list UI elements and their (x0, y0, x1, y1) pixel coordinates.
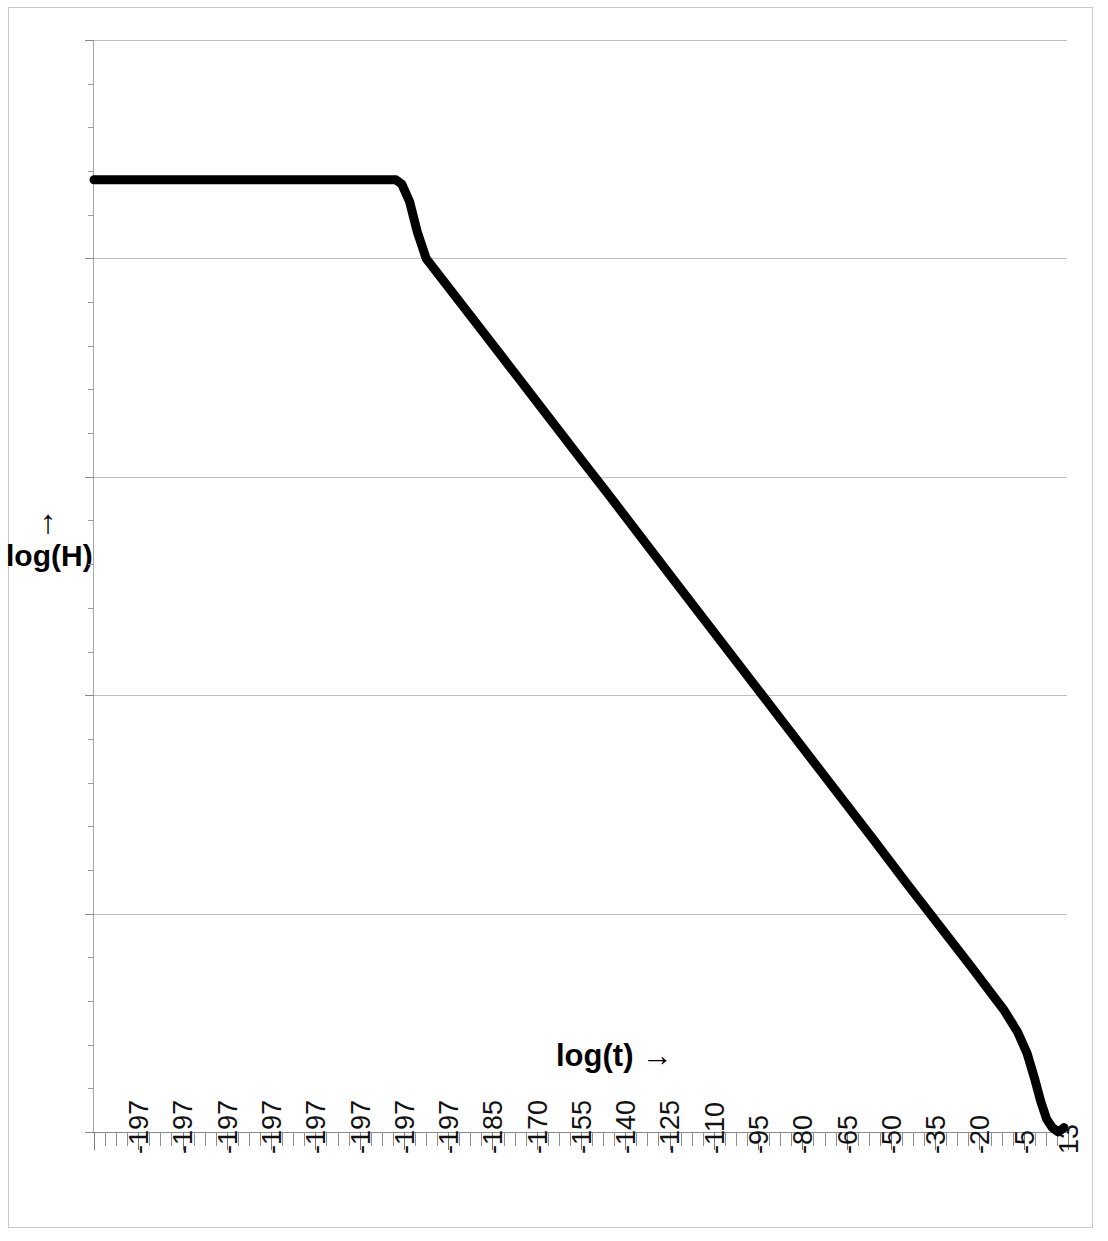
x-axis-minor-tick (515, 1132, 516, 1146)
curve-polyline (94, 180, 1064, 1132)
x-axis-minor-tick (780, 1132, 781, 1146)
x-axis-minor-tick (913, 1132, 914, 1146)
x-axis-minor-tick (105, 1132, 106, 1146)
x-axis-minor-tick (116, 1132, 117, 1146)
x-axis-minor-tick (825, 1132, 826, 1146)
plot-area: -197-197-197-197-197-197-197-197-185-170… (93, 40, 1067, 1132)
y-axis-major-tick (85, 1132, 94, 1133)
x-axis-minor-tick (470, 1132, 471, 1146)
x-axis-minor-tick (382, 1132, 383, 1146)
y-axis-title-text: log(H) (6, 539, 93, 572)
x-axis-minor-tick (1002, 1132, 1003, 1146)
x-axis-minor-tick (249, 1132, 250, 1146)
x-axis-minor-tick (160, 1132, 161, 1146)
y-axis-major-tick (85, 914, 94, 915)
x-axis-minor-tick (647, 1132, 648, 1146)
x-axis-minor-tick (692, 1132, 693, 1146)
x-axis-minor-tick (338, 1132, 339, 1146)
y-axis-major-tick (85, 695, 94, 696)
y-axis-title: ↑ log(H) (6, 505, 90, 573)
x-axis-minor-tick (957, 1132, 958, 1146)
x-axis-major-tick (94, 1132, 95, 1150)
y-axis-major-tick (85, 258, 94, 259)
series-log-h (94, 40, 1068, 1132)
x-axis-minor-tick (603, 1132, 604, 1146)
x-axis-minor-tick (293, 1132, 294, 1146)
x-axis-tick-label: -5 (1012, 1130, 1039, 1154)
chart-figure: ↑ log(H) log(t) → -197-197-197-197-197-1… (0, 0, 1108, 1241)
x-axis-minor-tick (205, 1132, 206, 1146)
x-axis-minor-tick (869, 1132, 870, 1146)
x-axis-minor-tick (736, 1132, 737, 1146)
x-axis-minor-tick (1046, 1132, 1047, 1146)
y-axis-arrow-icon: ↑ (6, 505, 90, 538)
x-axis-minor-tick (559, 1132, 560, 1146)
x-axis-minor-tick (426, 1132, 427, 1146)
y-axis-major-tick (85, 40, 94, 41)
y-axis-major-tick (85, 477, 94, 478)
